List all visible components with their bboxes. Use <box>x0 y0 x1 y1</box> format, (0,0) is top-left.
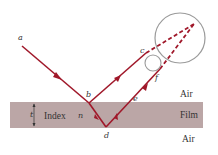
label-f: f <box>154 73 160 82</box>
eye-lens-circle <box>155 13 205 63</box>
dashed-extension-1 <box>146 24 194 53</box>
region-air-top: Air <box>180 89 194 99</box>
region-film: Film <box>180 110 199 120</box>
label-a: a <box>18 33 23 42</box>
film-index-label: Index <box>44 111 66 121</box>
label-b: b <box>86 90 91 99</box>
index-symbol: n <box>78 111 83 120</box>
film-layer <box>10 102 203 128</box>
detail-circle <box>145 55 161 71</box>
label-e: e <box>133 94 138 103</box>
label-c: c <box>140 46 145 55</box>
region-air-bottom: Air <box>182 134 196 144</box>
label-d: d <box>104 131 109 140</box>
thin-film-diagram: a b c d e f t Index n Air Film Air <box>0 0 218 155</box>
